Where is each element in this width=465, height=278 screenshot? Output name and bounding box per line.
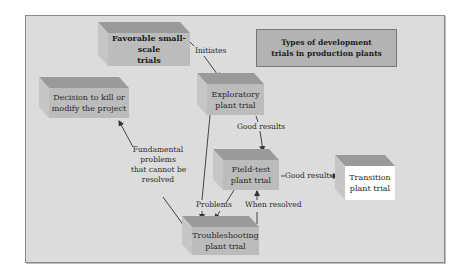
node-label: plant trial [231,175,271,186]
diagram-title-box: Types of development trials in productio… [256,29,397,67]
node-troubleshooting-plant-trial: Troubleshooting plant trial [182,216,259,255]
node-exploratory-plant-trial: Exploratory plant trial [197,73,264,115]
node-label: Decision to kill or [52,92,126,103]
node-label: Transition [349,172,391,183]
title-line: trials in production plants [271,48,382,59]
node-label: Field-test [231,164,271,175]
edge-label-good-results-exploratory: Good results [237,122,285,132]
node-label: modify the project [52,103,126,114]
edge-label-fundamental-problems: Fundamental problems that cannot be reso… [131,145,185,185]
edge-label-problems: Problems [196,200,232,210]
node-transition-plant-trial: Transition plant trial [335,155,395,200]
node-label: Exploratory [212,89,260,100]
node-label: trials [108,55,190,66]
edge-label-line: problems [131,155,185,165]
node-label: plant trial [349,183,391,194]
node-decision-kill-or-modify: Decision to kill or modify the project [39,77,129,118]
edge-label-line: Fundamental [131,145,185,155]
node-label: plant trial [212,100,260,111]
node-favorable-small-scale-trials: Favorable small-scale trials [98,22,190,66]
node-label: Favorable small-scale [108,33,190,55]
edge-label-line: resolved [131,175,185,185]
edge-label-initiates: Initiates [195,46,226,56]
edge-label-good-results-fieldtest: Good results [285,171,333,181]
node-field-test-plant-trial: Field-test plant trial [213,149,279,190]
edge-label-line: that cannot be [131,165,185,175]
node-label: plant trial [192,241,258,252]
edge-label-when-resolved: When resolved [245,200,301,210]
node-label: Troubleshooting [192,230,258,241]
title-line: Types of development [271,37,382,48]
